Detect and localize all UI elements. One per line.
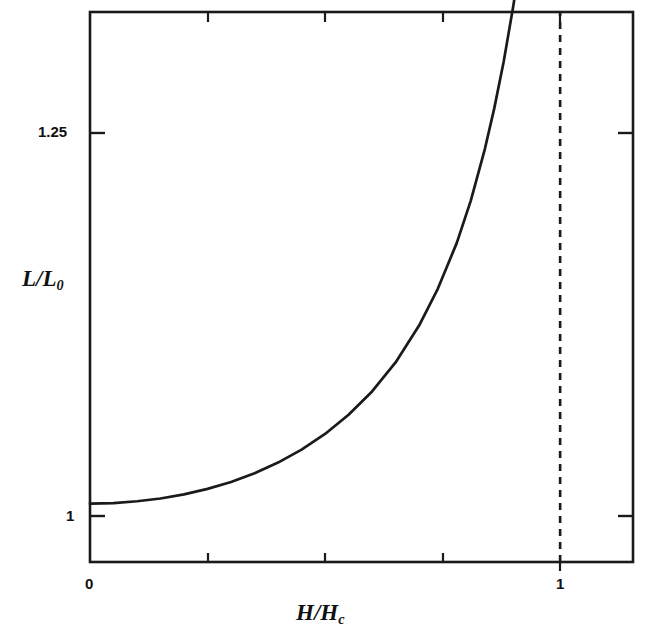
x-axis-title-main: H/H (296, 600, 338, 625)
right-axis-ticks (618, 133, 633, 516)
y-tick-label-1-25: 1.25 (38, 124, 67, 139)
x-axis-title-subscript: c (338, 611, 344, 627)
y-axis-ticks (90, 133, 105, 516)
figure-container: 1.25 1 0 1 L/L0 H/Hc (0, 0, 653, 637)
y-axis-title-main: L/L (22, 266, 57, 291)
x-tick-label-1: 1 (556, 576, 564, 591)
y-axis-title: L/L0 (22, 267, 64, 292)
top-axis-ticks (208, 12, 560, 22)
plot-canvas (0, 0, 653, 637)
x-axis-title: H/Hc (296, 601, 345, 626)
x-tick-label-0: 0 (85, 576, 93, 591)
y-axis-title-subscript: 0 (57, 277, 64, 293)
plot-frame (90, 12, 633, 562)
y-tick-label-1: 1 (66, 508, 74, 523)
data-series-curve (90, 0, 547, 504)
